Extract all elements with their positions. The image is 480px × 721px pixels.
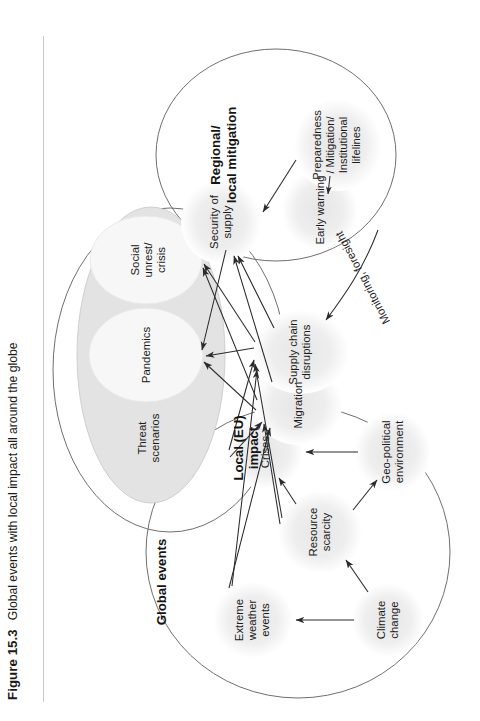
node-label-resource-scarcity-2: scarcity — [320, 512, 332, 551]
node-label-preparedness-3: Institutional — [337, 117, 349, 174]
edge-climate-to-resource-scarcity — [346, 560, 368, 592]
group-label-regional-local-mitigation: Regional/ — [208, 125, 223, 185]
edge-label-monitoring-foresight: Monitoring, foresight — [333, 229, 392, 326]
node-label-climate-change: Climate — [375, 601, 387, 640]
figure-number: Figure 15.3 — [5, 629, 20, 700]
edge-resource-scarcity-to-geopolitical — [353, 480, 377, 510]
node-label-security-of-supply-2: supply — [221, 205, 233, 238]
group-label-local-eu-impact: Local (EU) — [231, 415, 246, 480]
group-label-local-eu-impact-2: impact — [246, 426, 261, 469]
node-label-resource-scarcity: Resource — [307, 508, 319, 557]
node-label-extreme-weather: Extreme — [233, 599, 245, 641]
figure-caption: Figure 15.3Global events with local impa… — [6, 343, 19, 701]
figure-diagram: Global events Climate change Extreme wea… — [48, 40, 468, 700]
figure-caption-text: Global events with local impact all arou… — [6, 343, 20, 621]
edge-supply-chain-to-security-of-supply — [238, 256, 274, 328]
node-label-pandemics: Pandemics — [140, 327, 152, 384]
group-label-regional-local-mitigation-2: local mitigation — [224, 107, 239, 204]
node-label-supply-chain-2: disruptions — [300, 324, 312, 379]
node-label-security-of-supply: Security of — [208, 194, 220, 249]
node-label-threat-scenarios: Threat — [136, 421, 148, 455]
figure-caption-block: Figure 15.3Global events with local impa… — [0, 0, 44, 721]
node-label-extreme-weather-3: events — [259, 603, 271, 637]
node-label-social-unrest-2: unrest/ — [142, 242, 154, 278]
node-label-extreme-weather-2: weather — [246, 600, 258, 642]
node-label-early-warning: Early warning — [314, 175, 326, 244]
node-label-climate-change-2: change — [388, 601, 400, 638]
edge-resource-scarcity-to-crises — [279, 478, 296, 504]
group-label-global-events: Global events — [154, 539, 169, 625]
node-label-geopolitical-2: environment — [393, 420, 405, 484]
node-label-social-unrest-3: crisis — [155, 247, 167, 273]
node-label-preparedness-2: / Mitigation/ — [324, 116, 336, 174]
node-label-geopolitical: Geo-political — [380, 420, 392, 483]
node-label-supply-chain: Supply chain — [287, 319, 299, 384]
node-label-social-unrest: Social — [129, 244, 141, 275]
caption-divider — [43, 36, 44, 702]
node-label-preparedness: Preparedness — [311, 110, 323, 180]
node-label-threat-scenarios-2: scenarios — [149, 413, 161, 462]
node-label-migration: Migration — [292, 382, 304, 429]
node-label-preparedness-4: lifelines — [350, 126, 362, 164]
